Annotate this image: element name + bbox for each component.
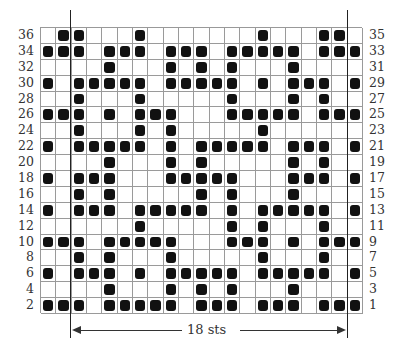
filled-stitch-square bbox=[258, 237, 268, 248]
filled-stitch-square bbox=[166, 157, 176, 168]
chart-cell bbox=[102, 139, 117, 155]
chart-cell bbox=[194, 298, 209, 314]
chart-cell bbox=[256, 60, 271, 76]
filled-stitch-square bbox=[304, 141, 314, 152]
chart-cell bbox=[286, 76, 301, 92]
chart-cell bbox=[41, 155, 56, 171]
filled-stitch-square bbox=[258, 221, 268, 232]
chart-cell bbox=[164, 92, 179, 108]
chart-cell bbox=[271, 298, 286, 314]
chart-cell bbox=[210, 92, 225, 108]
filled-stitch-square bbox=[74, 141, 84, 152]
chart-cell bbox=[302, 107, 317, 123]
filled-stitch-square bbox=[288, 173, 298, 184]
filled-stitch-square bbox=[334, 46, 344, 57]
filled-stitch-square bbox=[227, 173, 237, 184]
filled-stitch-square bbox=[135, 237, 145, 248]
chart-cell bbox=[286, 60, 301, 76]
row-label-right: 11 bbox=[369, 219, 391, 233]
filled-stitch-square bbox=[258, 30, 268, 41]
chart-cell bbox=[164, 60, 179, 76]
chart-cell bbox=[302, 250, 317, 266]
chart-cell bbox=[194, 266, 209, 282]
filled-stitch-square bbox=[319, 252, 329, 263]
filled-stitch-square bbox=[43, 46, 53, 57]
row-label-right: 9 bbox=[369, 235, 391, 249]
chart-cell bbox=[118, 219, 133, 235]
chart-cell bbox=[118, 187, 133, 203]
chart-cell bbox=[286, 187, 301, 203]
chart-cell bbox=[194, 107, 209, 123]
chart-cell bbox=[148, 171, 163, 187]
chart-cell bbox=[317, 250, 332, 266]
chart-cell bbox=[240, 92, 255, 108]
chart-cell bbox=[148, 139, 163, 155]
chart-cell bbox=[240, 203, 255, 219]
chart-cell bbox=[41, 187, 56, 203]
filled-stitch-square bbox=[58, 46, 68, 57]
row-label-right: 21 bbox=[369, 139, 391, 153]
chart-cell bbox=[225, 76, 240, 92]
chart-cell bbox=[256, 266, 271, 282]
chart-cell bbox=[194, 139, 209, 155]
chart-cell bbox=[225, 155, 240, 171]
filled-stitch-square bbox=[334, 30, 344, 41]
chart-cell bbox=[133, 107, 148, 123]
chart-cell bbox=[332, 250, 347, 266]
chart-cell bbox=[118, 282, 133, 298]
chart-cell bbox=[302, 171, 317, 187]
filled-stitch-square bbox=[212, 300, 222, 311]
chart-cell bbox=[179, 250, 194, 266]
filled-stitch-square bbox=[258, 141, 268, 152]
row-label-left: 36 bbox=[12, 28, 34, 42]
chart-cell bbox=[72, 60, 87, 76]
chart-cell bbox=[72, 235, 87, 251]
filled-stitch-square bbox=[242, 237, 252, 248]
chart-cell bbox=[179, 92, 194, 108]
filled-stitch-square bbox=[288, 46, 298, 57]
chart-cell bbox=[41, 28, 56, 44]
chart-cell bbox=[225, 107, 240, 123]
filled-stitch-square bbox=[150, 300, 160, 311]
chart-cell bbox=[332, 282, 347, 298]
chart-cell bbox=[164, 28, 179, 44]
chart-cell bbox=[148, 282, 163, 298]
row-label-right: 23 bbox=[369, 123, 391, 137]
chart-cell bbox=[332, 123, 347, 139]
chart-cell bbox=[348, 235, 363, 251]
chart-cell bbox=[286, 219, 301, 235]
chart-cell bbox=[286, 139, 301, 155]
filled-stitch-square bbox=[135, 109, 145, 120]
filled-stitch-square bbox=[181, 173, 191, 184]
chart-cell bbox=[210, 107, 225, 123]
row-label-right: 27 bbox=[369, 92, 391, 106]
filled-stitch-square bbox=[104, 109, 114, 120]
filled-stitch-square bbox=[74, 125, 84, 136]
chart-cell bbox=[118, 28, 133, 44]
chart-cell bbox=[271, 203, 286, 219]
filled-stitch-square bbox=[104, 157, 114, 168]
filled-stitch-square bbox=[43, 109, 53, 120]
filled-stitch-square bbox=[74, 94, 84, 105]
chart-cell bbox=[332, 298, 347, 314]
chart-cell bbox=[102, 171, 117, 187]
chart-cell bbox=[348, 123, 363, 139]
chart-cell bbox=[102, 107, 117, 123]
chart-cell bbox=[179, 235, 194, 251]
repeat-right-boundary bbox=[347, 10, 348, 338]
chart-cell bbox=[302, 282, 317, 298]
chart-cell bbox=[41, 76, 56, 92]
chart-cell bbox=[256, 171, 271, 187]
filled-stitch-square bbox=[166, 300, 176, 311]
filled-stitch-square bbox=[74, 109, 84, 120]
filled-stitch-square bbox=[350, 237, 360, 248]
chart-cell bbox=[102, 76, 117, 92]
filled-stitch-square bbox=[135, 205, 145, 216]
filled-stitch-square bbox=[181, 78, 191, 89]
chart-cell bbox=[102, 266, 117, 282]
chart-cell bbox=[87, 76, 102, 92]
chart-cell bbox=[302, 139, 317, 155]
chart-cell bbox=[41, 60, 56, 76]
filled-stitch-square bbox=[350, 300, 360, 311]
chart-cell bbox=[240, 235, 255, 251]
